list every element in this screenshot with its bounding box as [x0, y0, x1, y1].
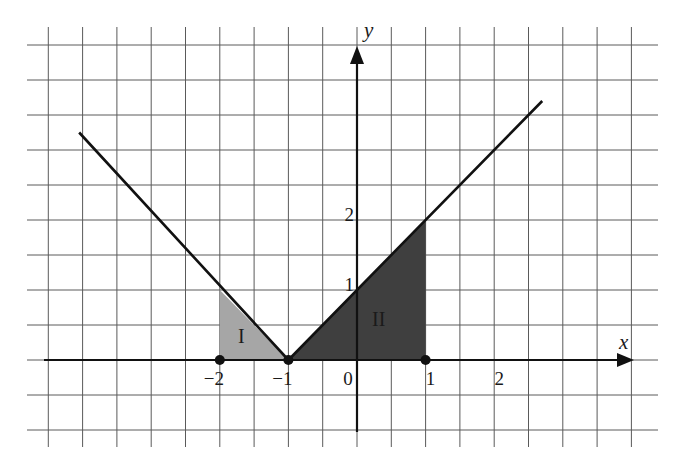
absolute-value-graph	[79, 101, 542, 360]
y-axis-label: y	[362, 18, 374, 42]
point-marker	[215, 355, 225, 365]
y-tick-label: 2	[345, 204, 355, 225]
coordinate-diagram: −2−1012 12 x y I II	[0, 0, 678, 465]
point-marker	[421, 355, 431, 365]
x-tick-label: 1	[426, 368, 436, 389]
region-I-label: I	[238, 325, 245, 347]
x-tick-label: −2	[204, 368, 224, 389]
y-tick-labels: 12	[345, 204, 355, 295]
x-tick-label: 2	[494, 368, 504, 389]
diagram-canvas: −2−1012 12 x y I II	[0, 0, 678, 465]
point-marker	[283, 355, 293, 365]
region-II-label: II	[372, 308, 385, 330]
x-axis-label: x	[618, 330, 629, 354]
x-tick-labels: −2−1012	[204, 368, 504, 389]
y-axis-arrow-icon	[350, 46, 364, 64]
x-tick-label: 0	[343, 368, 353, 389]
x-tick-label: −1	[272, 368, 292, 389]
y-tick-label: 1	[345, 274, 355, 295]
